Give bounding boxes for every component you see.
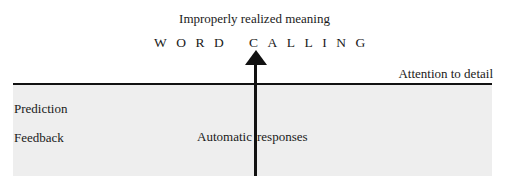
top-label: Improperly realized meaning	[0, 11, 509, 27]
left-label-feedback: Feedback	[14, 130, 64, 146]
center-label-left: Automatic	[197, 129, 252, 145]
center-label-right: responses	[257, 129, 308, 145]
arrow-shaft	[254, 62, 257, 176]
outcome-word-2: CALLING	[249, 35, 375, 51]
threshold-line	[13, 83, 492, 85]
arrow-up-icon	[245, 50, 267, 65]
threshold-label: Attention to detail	[398, 66, 493, 82]
left-label-prediction: Prediction	[14, 101, 67, 117]
shaded-region	[13, 84, 492, 176]
outcome-word-1: WORD	[154, 35, 233, 51]
